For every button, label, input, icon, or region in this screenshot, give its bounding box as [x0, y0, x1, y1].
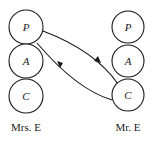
- ego-label-parent: P: [22, 21, 30, 33]
- ego-label-adult: A: [22, 55, 30, 67]
- transaction-response-arrow: [37, 43, 112, 100]
- ego-label-adult: A: [124, 55, 132, 67]
- ta-diagram: P A C Mrs. E P A C Mr. E: [0, 0, 156, 144]
- arrowhead-up-left-icon: [57, 61, 63, 68]
- person-name-label: Mr. E: [115, 121, 140, 133]
- person-mrs-e: P A C Mrs. E: [9, 10, 43, 133]
- person-mr-e: P A C Mr. E: [112, 11, 144, 133]
- ego-label-parent: P: [124, 21, 132, 33]
- ego-label-child: C: [22, 90, 30, 102]
- ego-label-child: C: [124, 89, 132, 101]
- person-name-label: Mrs. E: [11, 121, 41, 133]
- transaction-stimulus-arrow: [43, 31, 118, 84]
